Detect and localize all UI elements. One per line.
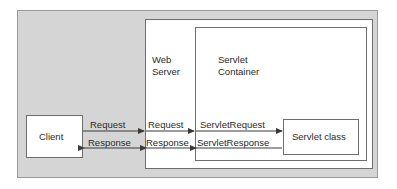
- client-label: Client: [39, 131, 63, 143]
- flow-label-response-server-to-client: Response: [88, 137, 131, 148]
- flow-label-response-server-outbound: Response: [146, 137, 189, 148]
- web-server-label-line1: Web: [152, 54, 171, 65]
- flow-label-servlet-request: ServletRequest: [200, 119, 265, 130]
- flow-label-request-client-to-server: Request: [90, 119, 125, 130]
- flow-label-request-server-inbound: Request: [148, 119, 183, 130]
- servlet-container-label-line1: Servlet: [218, 54, 248, 65]
- servlet-architecture-diagram: Client WebServer ServletContainer Servle…: [0, 0, 397, 189]
- servlet-class-label: Servlet class: [292, 131, 346, 143]
- servlet-container-label: ServletContainer: [218, 54, 259, 77]
- web-server-label-line2: Server: [152, 66, 180, 77]
- web-server-label: WebServer: [152, 54, 180, 77]
- flow-label-servlet-response: ServletResponse: [197, 137, 269, 148]
- servlet-container-label-line2: Container: [218, 66, 259, 77]
